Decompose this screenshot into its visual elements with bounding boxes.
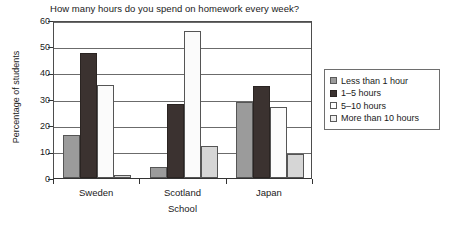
chart-title: How many hours do you spend on homework …	[50, 3, 340, 15]
legend-item-label: Less than 1 hour	[341, 76, 408, 86]
bar	[97, 85, 114, 178]
bar	[201, 146, 218, 178]
x-axis-group-label-scotland: Scotland	[139, 187, 225, 198]
x-axis-title: School	[53, 203, 312, 214]
legend-item[interactable]: 1–5 hours	[330, 87, 435, 99]
gridline	[54, 22, 311, 23]
x-axis-tick-mark	[226, 179, 227, 184]
y-axis-tick-label: 60	[28, 17, 50, 26]
y-axis-title: Percentage of students	[11, 37, 21, 157]
bar	[80, 53, 97, 178]
legend-item-label: More than 10 hours	[341, 113, 419, 123]
legend-swatch-icon	[330, 77, 337, 84]
legend-swatch-icon	[330, 102, 337, 109]
legend-item[interactable]: Less than 1 hour	[330, 75, 435, 87]
x-axis-group-label-japan: Japan	[226, 187, 312, 198]
chart-legend: Less than 1 hour1–5 hours5–10 hoursMore …	[324, 69, 440, 130]
plot-area	[53, 21, 312, 179]
legend-swatch-icon	[330, 90, 337, 97]
bar	[184, 31, 201, 178]
bar-chart-figure: How many hours do you spend on homework …	[0, 0, 451, 226]
x-axis-tick-mark	[53, 179, 54, 184]
legend-item[interactable]: 5–10 hours	[330, 100, 435, 112]
x-axis-tick-mark	[312, 179, 313, 184]
bar	[287, 154, 304, 178]
y-axis-tick-label: 40	[28, 69, 50, 78]
y-axis-tick-label: 20	[28, 122, 50, 131]
bar	[150, 167, 167, 178]
bar	[114, 175, 131, 178]
legend-item-label: 5–10 hours	[341, 101, 386, 111]
x-axis-tick-mark	[139, 179, 140, 184]
legend-item[interactable]: More than 10 hours	[330, 112, 435, 124]
bar	[270, 107, 287, 178]
legend-swatch-icon	[330, 115, 337, 122]
bar	[236, 102, 253, 178]
bar	[63, 135, 80, 178]
bar	[167, 104, 184, 178]
gridline	[54, 48, 311, 49]
y-axis-tick-label: 0	[28, 175, 50, 184]
legend-item-label: 1–5 hours	[341, 88, 381, 98]
bar	[253, 86, 270, 178]
x-axis-group-label-sweden: Sweden	[53, 187, 139, 198]
y-axis-tick-label: 10	[28, 148, 50, 157]
y-axis-tick-label: 50	[28, 43, 50, 52]
y-axis-tick-label: 30	[28, 96, 50, 105]
